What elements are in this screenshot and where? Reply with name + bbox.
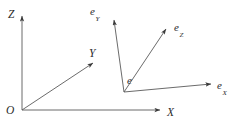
e-y-vector-label: eY xyxy=(90,2,99,21)
x-axis-label: X xyxy=(167,103,174,119)
e-y-vector-line xyxy=(114,20,124,92)
e-x-label-subscript: X xyxy=(222,89,226,97)
y-axis-label: Y xyxy=(89,44,95,60)
e-z-label-subscript: Z xyxy=(179,31,183,39)
z-axis-label-text: Z xyxy=(8,8,14,20)
coordinate-frames-figure: O Z Y X e eY eZ eX xyxy=(0,0,238,131)
e-origin-label: e xyxy=(127,71,132,87)
e-x-vector-label: eX xyxy=(217,76,226,95)
global-frame-axes xyxy=(22,16,160,110)
y-axis-label-text: Y xyxy=(89,47,95,59)
e-z-vector-label: eZ xyxy=(174,18,183,37)
origin-label: O xyxy=(6,101,14,117)
e-y-label-subscript: Y xyxy=(95,15,99,23)
e-x-vector-line xyxy=(124,84,211,92)
origin-label-text: O xyxy=(6,104,14,116)
z-axis-label: Z xyxy=(8,5,14,21)
x-axis-label-text: X xyxy=(167,106,174,118)
e-origin-label-text: e xyxy=(127,74,132,86)
y-axis-line xyxy=(22,63,93,110)
figure-canvas xyxy=(0,0,238,131)
